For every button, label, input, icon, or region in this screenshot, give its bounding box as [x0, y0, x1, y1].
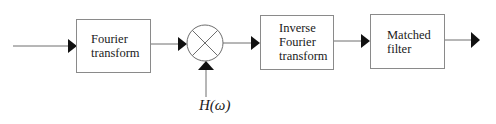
multiplier-icon — [187, 25, 223, 61]
fourier-transform-label: Fourier transform — [91, 32, 140, 60]
matched-filter-input-arrow-icon — [361, 34, 370, 48]
h-omega-label: H(ω) — [199, 97, 230, 114]
multiplier-input-arrow-icon — [178, 37, 187, 51]
input-arrow-icon — [68, 39, 77, 53]
ifft-input-arrow-icon — [251, 36, 260, 50]
block-diagram-canvas — [0, 0, 496, 124]
output-arrow-icon — [471, 32, 480, 48]
inverse-fourier-transform-label: Inverse Fourier transform — [279, 21, 328, 63]
matched-filter-label: Matched filter — [387, 28, 431, 56]
h-omega-arrow-icon — [198, 61, 214, 70]
